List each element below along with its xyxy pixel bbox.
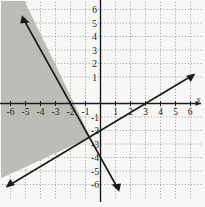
ytick-label: 3: [92, 46, 97, 56]
x-axis-label: x: [196, 95, 201, 104]
xtick-label: -3: [52, 107, 60, 117]
xtick-label: 2: [128, 107, 133, 117]
graph-canvas: -6 -5 -4 -3 -2 -1 1 2 3 4 5 6 6 5 4 3 2 …: [0, 0, 205, 207]
coordinate-graph: -6 -5 -4 -3 -2 -1 1 2 3 4 5 6 6 5 4 3 2 …: [0, 0, 205, 207]
ytick-label: 1: [92, 73, 97, 83]
ytick-label: -6: [91, 180, 99, 190]
xtick-label: -2: [67, 107, 75, 117]
xtick-label: -4: [37, 107, 45, 117]
ytick-label: -3: [91, 140, 99, 150]
ytick-label: 2: [92, 59, 97, 69]
xtick-label: -6: [7, 107, 15, 117]
xtick-label: -5: [22, 107, 30, 117]
xtick-label: 4: [158, 107, 163, 117]
ytick-label: 6: [92, 5, 97, 15]
xtick-label: 3: [143, 107, 148, 117]
ytick-label: 4: [92, 32, 97, 42]
ytick-label: 5: [92, 19, 97, 29]
ytick-label: -5: [91, 167, 99, 177]
xtick-label: 6: [188, 107, 193, 117]
ytick-label: -2: [91, 126, 99, 136]
ytick-label: -1: [91, 113, 99, 123]
xtick-label: 5: [173, 107, 178, 117]
xtick-label: -1: [82, 107, 90, 117]
xtick-label: 1: [113, 107, 118, 117]
ytick-label: -4: [91, 153, 99, 163]
